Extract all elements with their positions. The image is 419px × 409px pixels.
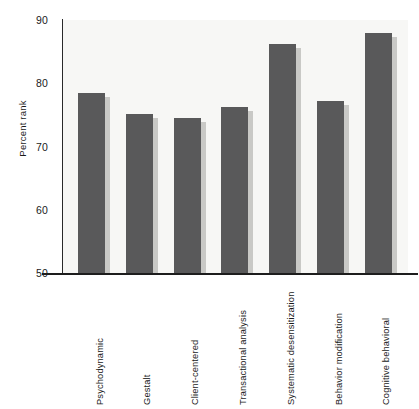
x-label-5: Systematic desensitization (287, 292, 296, 405)
bar-5[interactable] (269, 44, 296, 273)
bar-4[interactable] (221, 107, 248, 273)
y-axis-title: Percent rank (17, 84, 28, 174)
x-label-1: Psychodynamic (96, 338, 105, 405)
x-label-6: Behavior modification (335, 313, 344, 405)
bar-3[interactable] (174, 118, 201, 273)
y-tick-label-80: 80 (36, 78, 62, 89)
y-tick-label-70: 70 (36, 142, 62, 153)
bar-2[interactable] (126, 114, 153, 273)
x-label-7: Cognitive behavioral (382, 318, 391, 405)
x-label-4: Transactional analysis (239, 310, 248, 405)
y-tick-label-60: 60 (36, 205, 62, 216)
y-axis-line (62, 19, 63, 274)
x-label-3: Client-centered (191, 340, 200, 405)
bar-6[interactable] (317, 101, 344, 273)
x-axis-category-labels: PsychodynamicGestaltClient-centeredTrans… (0, 273, 419, 409)
y-tick-label-90: 90 (36, 15, 62, 26)
bar-1[interactable] (78, 93, 105, 273)
bar-chart-figure: 9080706050 Percent rank PsychodynamicGes… (0, 0, 419, 409)
x-label-2: Gestalt (143, 374, 152, 405)
bar-7[interactable] (365, 33, 392, 273)
plot-area (63, 20, 408, 273)
